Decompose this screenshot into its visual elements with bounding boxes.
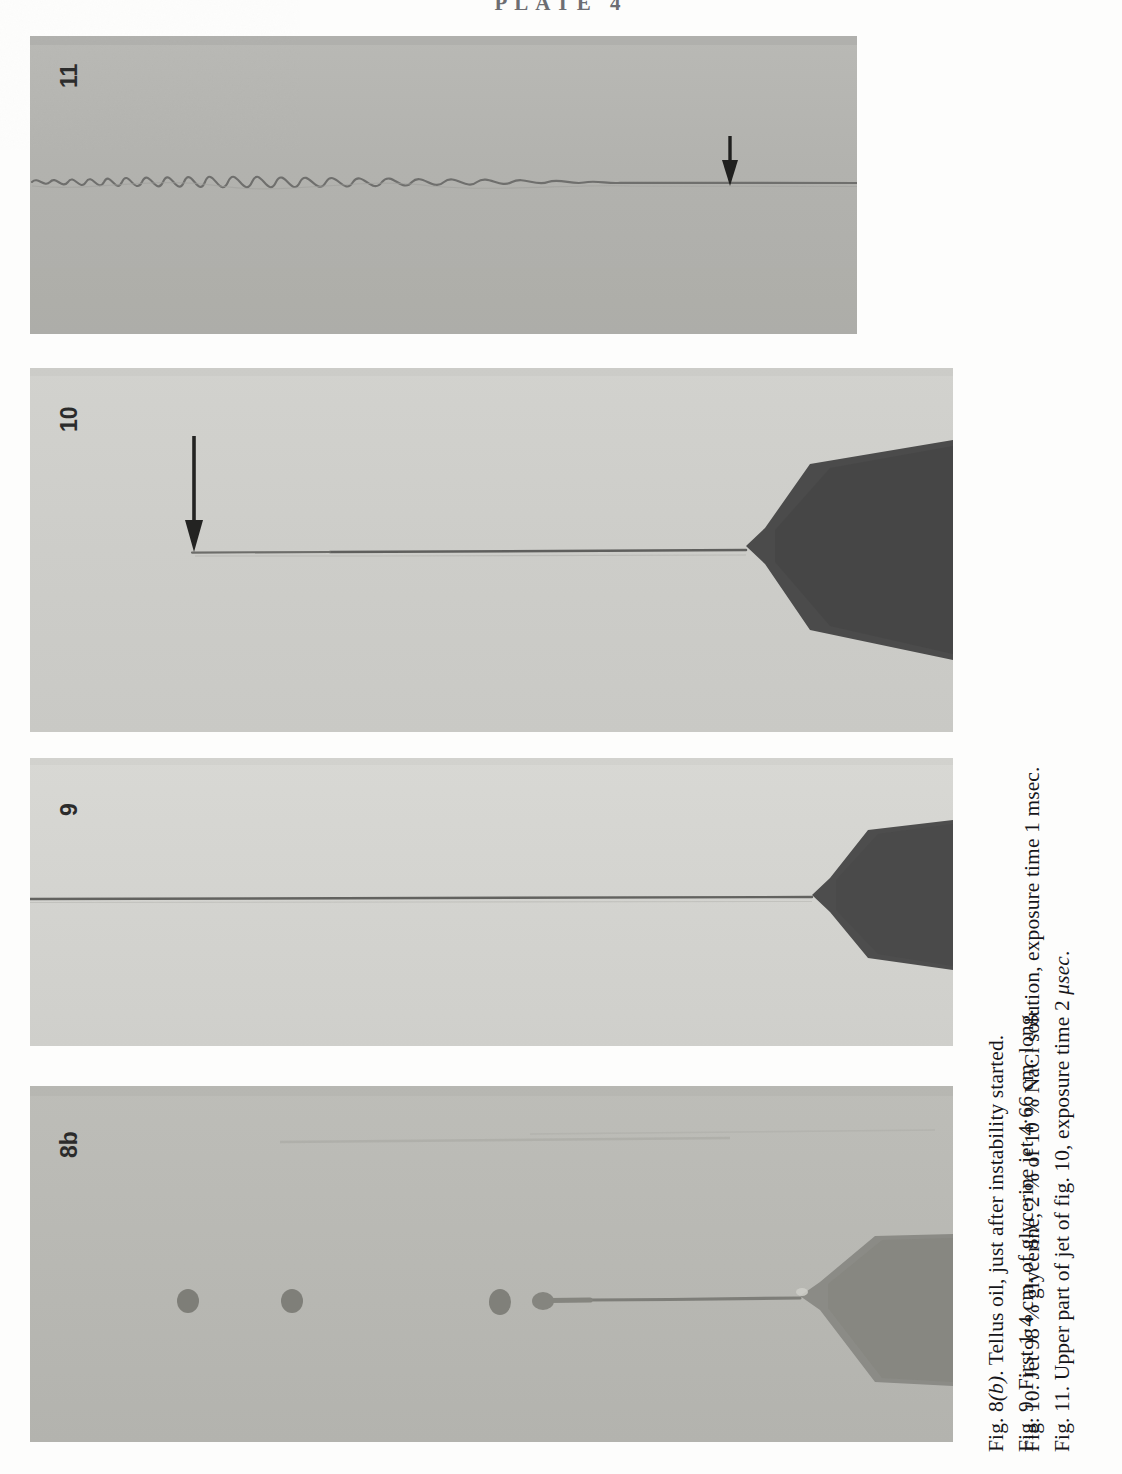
caption-fig-11-block: Fig. 11. Upper part of jet of fig. 10, e…	[1052, 951, 1074, 1452]
panel-10-image	[30, 368, 953, 732]
panel-label-9: 9	[56, 803, 83, 816]
figure-panel-8b: 8b	[30, 1086, 953, 1442]
caption-fig-11: Fig. 11. Upper part of jet of fig. 10, e…	[1052, 951, 1074, 1452]
panel-11-image	[30, 36, 857, 334]
panel-8b-jet-overlay	[30, 1086, 953, 1442]
panel-label-10: 10	[56, 406, 83, 432]
caption-fig-11-text: Upper part of jet of fig. 10, exposure t…	[1050, 995, 1074, 1386]
panel-8b-image	[30, 1086, 953, 1442]
panel-10-jet-overlay	[30, 368, 953, 732]
figure-panel-11: 11	[30, 36, 857, 334]
panel-8b-drop	[281, 1289, 303, 1313]
panel-label-8b: 8b	[56, 1131, 83, 1158]
figure-panel-10: 10	[30, 368, 953, 732]
panel-9-jet-overlay	[30, 758, 953, 1046]
caption-fig-8b-text: . Tellus oil, just after instability sta…	[984, 1035, 1008, 1376]
caption-fig-9: Fig. 9. First 1·4 cm. of glycerine jet 4…	[1016, 1009, 1038, 1452]
figure-panel-9: 9	[30, 758, 953, 1046]
panel-9-image	[30, 758, 953, 1046]
plate-figure-stack: 11	[0, 0, 975, 1474]
panel-8b-drop	[489, 1289, 511, 1315]
caption-fig-11-figure: Fig. 11.	[1050, 1386, 1074, 1452]
caption-fig-9-figure: Fig. 9.	[1014, 1396, 1038, 1452]
caption-fig-11-text-end: .	[1050, 951, 1074, 956]
panel-8b-drop	[177, 1289, 199, 1313]
caption-fig-8b-figure: Fig. 8	[984, 1401, 1008, 1452]
caption-fig-11-unit: μsec	[1050, 956, 1074, 995]
caption-fig-9-text: First 1·4 cm. of glycerine jet 4·66 cm. …	[1014, 1009, 1038, 1396]
caption-fig-9-block: Fig. 9. First 1·4 cm. of glycerine jet 4…	[1016, 1009, 1038, 1452]
panel-label-11: 11	[56, 64, 83, 88]
panel-11-jet-overlay	[30, 36, 857, 334]
caption-column-left: Fig. 8(b). Tellus oil, just after instab…	[986, 1035, 1008, 1452]
panel-8b-jet-head-drop	[532, 1292, 554, 1310]
caption-fig-8b: Fig. 8(b). Tellus oil, just after instab…	[986, 1035, 1008, 1452]
plate-running-head: PLATE 4	[0, 0, 1122, 16]
caption-fig-8b-suffix: (b)	[984, 1376, 1008, 1401]
